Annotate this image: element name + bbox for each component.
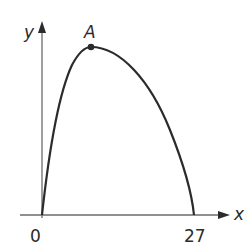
origin-label: 0 [30,228,41,245]
curve [42,47,194,215]
x-axis-arrow-icon [218,211,230,219]
y-axis-arrow-icon [38,21,46,33]
x-tick-label-27: 27 [184,228,206,245]
graph-figure: y A 0 27 x [0,0,252,251]
y-axis-label: y [24,24,34,41]
point-a-marker [88,44,95,51]
x-axis-label: x [234,206,244,223]
point-a-label: A [84,24,96,41]
graph-canvas [0,0,252,251]
